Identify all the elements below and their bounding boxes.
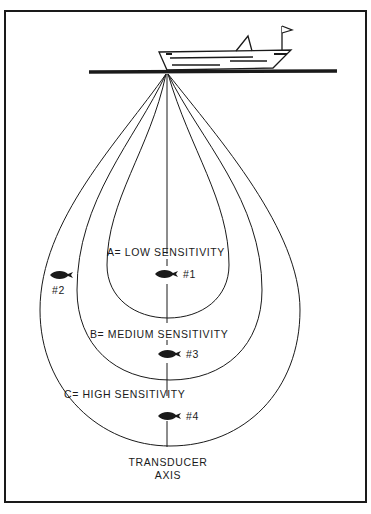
fish-icon bbox=[155, 270, 178, 278]
zone-a-label: A= LOW SENSITIVITY bbox=[107, 246, 225, 258]
transducer-axis-label-line1: TRANSDUCER bbox=[129, 456, 208, 468]
transducer-axis-label-line2: AXIS bbox=[155, 469, 181, 481]
zone-a-low-sensitivity-cone bbox=[107, 74, 229, 318]
fish-icon bbox=[158, 412, 181, 420]
fish-icon bbox=[158, 350, 181, 358]
zone-c-label: C= HIGH SENSITIVITY bbox=[64, 388, 185, 400]
fish-4-label: #4 bbox=[186, 410, 199, 422]
fish-1-label: #1 bbox=[183, 268, 196, 280]
boat-icon bbox=[159, 26, 292, 70]
sonar-diagram: A= LOW SENSITIVITY B= MEDIUM SENSITIVITY… bbox=[0, 0, 371, 514]
fish-2-label: #2 bbox=[52, 284, 65, 296]
zone-b-label: B= MEDIUM SENSITIVITY bbox=[90, 328, 228, 340]
fish-icon bbox=[50, 271, 73, 279]
fish-3-label: #3 bbox=[186, 348, 199, 360]
water-surface-line bbox=[89, 71, 337, 72]
